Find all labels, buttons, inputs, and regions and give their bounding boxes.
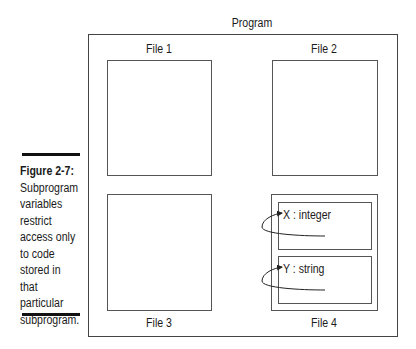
scope-arrows (0, 0, 416, 349)
arrow-y-icon (262, 267, 325, 290)
arrow-x-icon (262, 213, 325, 236)
